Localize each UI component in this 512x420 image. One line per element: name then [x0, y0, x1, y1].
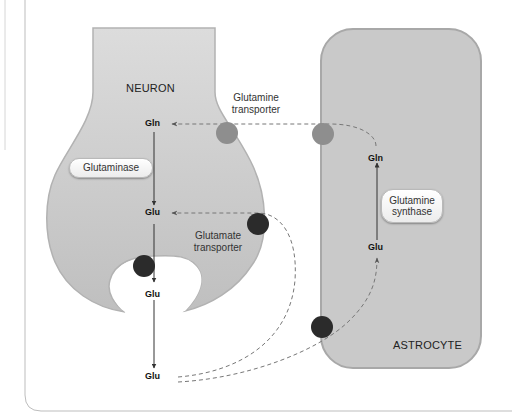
glutamate-transporter-label: Glutamate transporter: [187, 230, 249, 253]
vesicle-release-site: [133, 255, 155, 277]
glutamine-synthase-label-line2: synthase: [392, 206, 432, 218]
astrocyte-glu-label: Glu: [368, 242, 383, 252]
synaptic-glu-label: Glu: [145, 371, 160, 381]
neuron-label: NEURON: [126, 82, 175, 95]
glutaminase-label: Glutaminase: [83, 162, 139, 174]
astrocyte-glutamate-transporter: [311, 316, 333, 338]
neuron-glutamine-transporter: [216, 122, 238, 144]
glutamine-transporter-label: Glutamine transporter: [224, 92, 288, 115]
glutaminase-enzyme: Glutaminase: [69, 158, 153, 178]
glutamine-synthase-label-line1: Glutamine: [389, 195, 435, 207]
glutamate-transporter-label-line2: transporter: [187, 242, 249, 254]
glutamine-transporter-label-line1: Glutamine: [224, 92, 288, 104]
glutamate-glutamine-cycle-diagram: NEURON ASTROCYTE Gln Glu Glu Glu Gln Glu…: [0, 0, 512, 420]
glutamine-synthase-enzyme: Glutamine synthase: [381, 189, 443, 223]
vesicle-glu-label: Glu: [145, 289, 160, 299]
glutamine-transporter-label-line2: transporter: [224, 104, 288, 116]
astrocyte-gln-label: Gln: [368, 153, 383, 163]
neuron-gln-label: Gln: [145, 118, 160, 128]
neuron-glu-label: Glu: [145, 207, 160, 217]
glutamate-transporter-label-line1: Glutamate: [187, 230, 249, 242]
astrocyte-label: ASTROCYTE: [393, 339, 462, 352]
neuron-glutamate-transporter: [247, 213, 269, 235]
astrocyte-glutamine-transporter: [312, 123, 334, 145]
synaptic-cleft: [112, 258, 202, 313]
